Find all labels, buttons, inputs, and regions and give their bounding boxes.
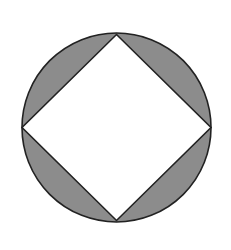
inscribed-square-diagram [0,0,231,250]
